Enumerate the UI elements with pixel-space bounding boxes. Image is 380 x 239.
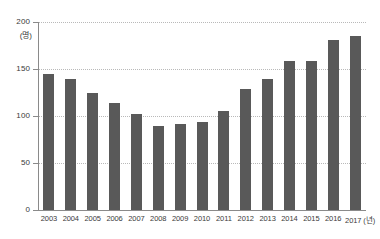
- y-tick-label-150: 150: [2, 64, 30, 73]
- x-tick-label-2017: 2017 (년): [340, 214, 380, 225]
- plot-area: [38, 22, 366, 210]
- bar-2015: [306, 61, 317, 210]
- bar-2004: [65, 79, 76, 210]
- bar-2011: [218, 111, 229, 210]
- x-axis-baseline: [38, 210, 366, 211]
- bar-2012: [240, 89, 251, 210]
- bar-2016: [328, 40, 339, 210]
- y-tick-label-0: 0: [2, 205, 30, 214]
- y-tick-label-200: 200: [2, 17, 30, 26]
- bar-2008: [153, 126, 164, 210]
- bar-2006: [109, 103, 120, 210]
- bar-2005: [87, 93, 98, 210]
- bar-2010: [197, 122, 208, 210]
- bar-2017: [350, 36, 361, 210]
- bar-2014: [284, 61, 295, 210]
- bar-2009: [175, 124, 186, 210]
- y-tick-label-100: 100: [2, 111, 30, 120]
- bar-2013: [262, 79, 273, 210]
- bar-2003: [43, 74, 54, 210]
- y-axis-unit-label: (명): [2, 29, 32, 40]
- y-tick-label-50: 50: [2, 158, 30, 167]
- bar-2007: [131, 114, 142, 210]
- y-tick-0: [33, 210, 38, 211]
